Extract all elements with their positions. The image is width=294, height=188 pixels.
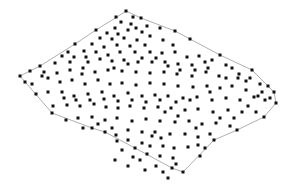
point-marker xyxy=(52,105,55,108)
point-marker xyxy=(245,80,248,83)
point-marker xyxy=(103,46,106,49)
point-marker xyxy=(169,133,172,136)
point-marker xyxy=(219,117,222,120)
point-marker xyxy=(159,99,162,102)
point-marker xyxy=(159,155,162,158)
point-marker xyxy=(81,73,84,76)
point-marker xyxy=(127,29,130,32)
point-marker xyxy=(116,117,119,120)
point-marker xyxy=(117,107,120,110)
point-marker xyxy=(71,79,74,82)
point-marker xyxy=(167,65,170,68)
point-marker xyxy=(196,96,199,99)
point-marker xyxy=(134,51,137,54)
point-marker xyxy=(188,120,191,123)
point-marker xyxy=(146,153,149,156)
point-marker xyxy=(99,58,102,61)
point-marker xyxy=(66,104,69,107)
point-marker xyxy=(204,61,207,64)
point-marker xyxy=(204,147,207,150)
point-marker xyxy=(120,21,123,24)
point-marker xyxy=(135,84,138,87)
point-marker xyxy=(132,16,135,19)
point-marker xyxy=(115,134,118,137)
point-marker xyxy=(127,129,130,132)
point-marker xyxy=(116,44,119,47)
point-marker xyxy=(197,144,200,147)
point-marker xyxy=(113,67,116,70)
point-marker xyxy=(219,87,222,90)
point-marker xyxy=(89,99,92,102)
point-marker xyxy=(145,101,148,104)
point-marker xyxy=(146,25,149,28)
point-marker xyxy=(141,95,144,98)
point-marker xyxy=(105,106,108,109)
point-marker xyxy=(197,108,200,111)
point-marker xyxy=(186,56,189,59)
point-marker xyxy=(255,111,258,114)
point-marker xyxy=(87,93,90,96)
point-marker xyxy=(269,97,272,100)
point-marker xyxy=(175,163,178,166)
point-marker xyxy=(236,129,239,132)
point-marker xyxy=(261,91,264,94)
point-marker xyxy=(263,116,266,119)
point-marker xyxy=(209,133,212,136)
point-marker xyxy=(73,95,76,98)
point-marker xyxy=(267,85,270,88)
point-marker xyxy=(135,27,138,30)
point-marker xyxy=(173,147,176,150)
point-marker xyxy=(114,159,117,162)
point-marker xyxy=(47,91,50,94)
point-marker xyxy=(162,39,165,42)
point-marker xyxy=(213,139,216,142)
point-marker xyxy=(159,27,162,30)
point-marker xyxy=(233,117,236,120)
point-marker xyxy=(198,55,201,58)
point-marker xyxy=(149,35,152,38)
point-marker xyxy=(84,83,87,86)
point-marker xyxy=(87,61,90,64)
point-marker xyxy=(253,96,256,99)
point-marker xyxy=(155,57,158,60)
point-marker xyxy=(161,52,164,55)
point-marker xyxy=(41,75,44,78)
point-marker xyxy=(73,56,76,59)
point-marker xyxy=(167,95,170,98)
point-marker xyxy=(249,77,252,80)
point-marker xyxy=(35,93,38,96)
point-marker xyxy=(229,125,232,128)
point-marker xyxy=(104,131,107,134)
point-marker xyxy=(127,165,130,168)
point-marker xyxy=(225,64,228,67)
point-marker xyxy=(239,99,242,102)
point-marker xyxy=(117,100,120,103)
point-marker xyxy=(194,69,197,72)
point-marker xyxy=(116,140,119,143)
point-marker xyxy=(199,155,202,158)
point-marker xyxy=(119,51,122,54)
point-marker xyxy=(115,16,118,19)
point-marker xyxy=(157,106,160,109)
point-marker xyxy=(167,177,170,180)
point-marker xyxy=(154,94,157,97)
point-marker xyxy=(132,156,135,159)
point-marker xyxy=(144,44,147,47)
point-marker xyxy=(111,127,114,130)
point-marker xyxy=(163,71,166,74)
point-marker xyxy=(205,71,208,74)
point-markers xyxy=(19,10,278,180)
point-marker xyxy=(114,27,117,30)
point-marker xyxy=(251,69,254,72)
point-marker xyxy=(144,169,147,172)
point-marker xyxy=(61,55,64,58)
point-marker xyxy=(141,131,144,134)
point-marker xyxy=(39,65,42,68)
point-marker xyxy=(209,91,212,94)
point-marker xyxy=(47,77,50,80)
point-marker xyxy=(24,81,27,84)
point-marker xyxy=(127,92,130,95)
point-marker xyxy=(101,91,104,94)
point-marker xyxy=(162,145,165,148)
point-marker xyxy=(155,165,158,168)
